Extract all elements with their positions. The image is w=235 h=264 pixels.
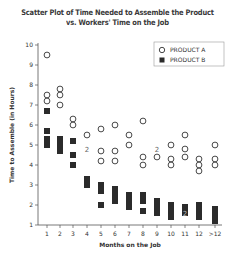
x-tick-label: 8: [141, 230, 145, 237]
product-b-marker: [44, 142, 50, 148]
product-b-marker: [112, 192, 118, 198]
x-tick-label: 9: [155, 230, 159, 237]
product-a-marker: [98, 126, 104, 132]
product-b-marker: [44, 128, 50, 134]
product-a-marker: [126, 142, 132, 148]
product-b-marker: [140, 192, 146, 198]
product-a-marker: [182, 132, 188, 138]
product-b-marker: [212, 218, 218, 224]
product-a-marker: [70, 116, 76, 122]
product-a-marker: [212, 156, 218, 162]
product-a-marker: [44, 52, 50, 58]
product-a-marker: [182, 154, 188, 160]
product-b-marker: [126, 204, 132, 210]
product-a-marker: [112, 122, 118, 128]
x-tick-label: 1: [45, 230, 49, 237]
product-a-marker: [140, 162, 146, 168]
product-a-marker: [112, 148, 118, 154]
x-tick-label: 2: [58, 230, 62, 237]
product-a-marker: [70, 122, 76, 128]
product-b-marker: [140, 198, 146, 204]
product-a-marker: [168, 142, 174, 148]
product-a-marker: [57, 92, 63, 98]
y-tick-label: 2: [29, 201, 33, 208]
product-b-marker: [98, 182, 104, 188]
product-b-marker: [57, 148, 63, 154]
product-b-marker: [44, 136, 50, 142]
product-b-marker: [112, 198, 118, 204]
product-b-marker: [168, 202, 174, 208]
product-a-marker: [98, 158, 104, 164]
x-tick-label: 11: [181, 230, 189, 237]
product-b-marker: [84, 182, 90, 188]
overlap-count-label: 2: [155, 146, 159, 154]
overlap-count-label: 2: [183, 210, 187, 218]
product-a-marker: [57, 102, 63, 108]
legend-square-icon: [160, 58, 165, 63]
product-b-marker: [212, 206, 218, 212]
product-a-marker: [154, 154, 160, 160]
x-tick-label: 4: [85, 230, 89, 237]
product-a-marker: [126, 132, 132, 138]
product-a-marker: [212, 162, 218, 168]
x-axis-label: Months on the Job: [99, 241, 161, 249]
product-b-marker: [44, 108, 50, 114]
product-a-marker: [84, 132, 90, 138]
product-b-marker: [168, 214, 174, 220]
product-a-marker: [182, 146, 188, 152]
plot-area: 12345678910123456789101112>12Months on t…: [0, 0, 235, 264]
product-b-marker: [168, 208, 174, 214]
product-a-marker: [44, 98, 50, 104]
y-tick-label: 9: [29, 61, 33, 68]
product-b-marker: [126, 198, 132, 204]
y-tick-label: 4: [29, 161, 33, 168]
product-a-marker: [196, 162, 202, 168]
product-a-marker: [196, 156, 202, 162]
product-b-marker: [140, 208, 146, 214]
product-a-marker: [168, 156, 174, 162]
y-axis-label: Time to Assemble (in Hours): [8, 87, 15, 183]
product-a-marker: [212, 142, 218, 148]
product-a-marker: [140, 154, 146, 160]
x-tick-label: >12: [209, 230, 222, 237]
product-b-marker: [57, 136, 63, 142]
y-tick-label: 5: [29, 141, 33, 148]
y-tick-label: 10: [25, 41, 33, 48]
legend-label: PRODUCT A: [170, 46, 206, 53]
product-b-marker: [70, 138, 76, 144]
product-b-marker: [154, 198, 160, 204]
x-tick-label: 5: [99, 230, 103, 237]
product-b-marker: [84, 176, 90, 182]
overlap-count-label: 2: [85, 146, 89, 154]
product-a-marker: [112, 158, 118, 164]
product-b-marker: [57, 142, 63, 148]
legend-label: PRODUCT B: [170, 56, 205, 63]
y-tick-label: 8: [29, 81, 33, 88]
legend-circle-icon: [159, 47, 164, 52]
product-b-marker: [98, 202, 104, 208]
y-tick-label: 1: [29, 221, 33, 228]
x-tick-label: 3: [71, 230, 75, 237]
product-b-marker: [126, 192, 132, 198]
product-b-marker: [196, 214, 202, 220]
product-b-marker: [196, 202, 202, 208]
x-tick-label: 7: [127, 230, 131, 237]
product-a-marker: [44, 92, 50, 98]
product-a-marker: [168, 162, 174, 168]
product-b-marker: [154, 210, 160, 216]
product-b-marker: [196, 208, 202, 214]
x-tick-label: 12: [195, 230, 203, 237]
product-b-marker: [70, 162, 76, 168]
scatter-chart: Scatter Plot of Time Needed to Assemble …: [0, 0, 235, 264]
product-b-marker: [212, 212, 218, 218]
y-tick-label: 7: [29, 101, 33, 108]
product-a-marker: [98, 148, 104, 154]
product-a-marker: [140, 118, 146, 124]
x-tick-label: 6: [113, 230, 117, 237]
product-b-marker: [112, 186, 118, 192]
product-a-marker: [196, 168, 202, 174]
product-b-marker: [70, 152, 76, 158]
y-tick-label: 6: [29, 121, 33, 128]
x-tick-label: 10: [167, 230, 175, 237]
y-tick-label: 3: [29, 181, 33, 188]
